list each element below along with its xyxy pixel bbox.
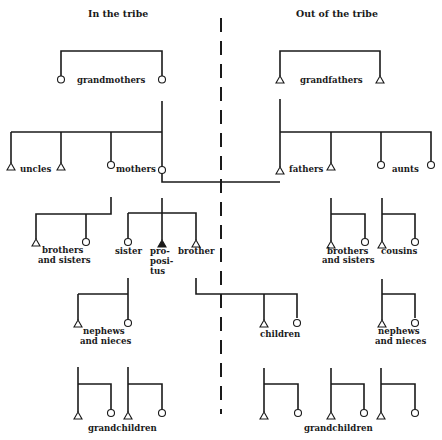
label-mothers: mothers: [116, 164, 156, 174]
header-out-tribe: Out of the tribe: [296, 8, 378, 19]
female-icon: [428, 162, 435, 169]
male-icon: [260, 412, 268, 419]
grandfathers-group: grandfathers: [276, 51, 384, 85]
label-propositus-1: pro-: [150, 246, 170, 256]
label-children: children: [260, 329, 301, 339]
female-icon: [159, 76, 166, 83]
label-grandchildren-left: grandchildren: [88, 423, 157, 433]
label-fathers: fathers: [289, 164, 323, 174]
label-nephews-left: nephews: [83, 326, 125, 336]
label-grandfathers: grandfathers: [300, 75, 363, 85]
children-generation: nephews and nieces children nephews and …: [74, 278, 426, 346]
female-icon: [108, 162, 115, 169]
label-cousins: cousins: [381, 246, 418, 256]
male-icon: [327, 412, 335, 419]
male-icon: [276, 167, 284, 174]
label-brothers-left: brothers: [42, 245, 83, 255]
ego-generation-left: brothers and sisters sister pro- posi- t…: [32, 197, 215, 276]
female-icon: [361, 410, 368, 417]
ego-generation-right: brothers and sisters cousins: [322, 198, 419, 265]
label-grandchildren-right: grandchildren: [304, 423, 373, 433]
label-brother: brother: [178, 246, 215, 256]
label-propositus-2: posi-: [150, 256, 174, 266]
label-and-nieces-left: and nieces: [80, 336, 131, 346]
female-icon: [362, 239, 369, 246]
label-and-nieces-right: and nieces: [375, 336, 426, 346]
mothers-generation: uncles mothers: [7, 101, 280, 182]
male-icon: [376, 76, 384, 83]
label-sister: sister: [115, 246, 142, 256]
male-icon: [57, 163, 65, 170]
grandchildren-right: grandchildren: [260, 368, 419, 433]
female-icon: [294, 320, 301, 327]
female-icon: [83, 239, 90, 246]
label-and-sisters-left: and sisters: [38, 255, 91, 265]
female-icon: [125, 320, 132, 327]
grandmothers-group: grandmothers: [58, 51, 166, 85]
female-icon: [412, 410, 419, 417]
female-icon: [58, 76, 65, 83]
kinship-diagram: In the tribe Out of the tribe grandmothe…: [0, 0, 442, 440]
male-icon: [32, 239, 40, 246]
label-aunts: aunts: [392, 164, 419, 174]
male-icon: [327, 163, 335, 170]
label-uncles: uncles: [20, 164, 51, 174]
female-icon: [108, 410, 115, 417]
male-icon: [276, 76, 284, 83]
male-icon: [74, 412, 82, 419]
female-icon: [412, 239, 419, 246]
female-icon: [159, 167, 166, 174]
female-icon: [159, 410, 166, 417]
header-in-tribe: In the tribe: [88, 8, 148, 19]
female-icon: [125, 239, 132, 246]
male-icon: [124, 412, 132, 419]
male-icon: [74, 320, 82, 327]
label-propositus-3: tus: [150, 266, 165, 276]
female-icon: [295, 410, 302, 417]
label-and-sisters-right: and sisters: [322, 255, 375, 265]
male-icon: [377, 412, 385, 419]
male-icon: [260, 320, 268, 327]
grandchildren-left: grandchildren: [74, 367, 166, 433]
label-grandmothers: grandmothers: [77, 75, 145, 85]
fathers-generation: fathers aunts: [276, 99, 435, 174]
label-nephews-right: nephews: [378, 326, 420, 336]
male-icon: [7, 163, 15, 170]
female-icon: [378, 162, 385, 169]
